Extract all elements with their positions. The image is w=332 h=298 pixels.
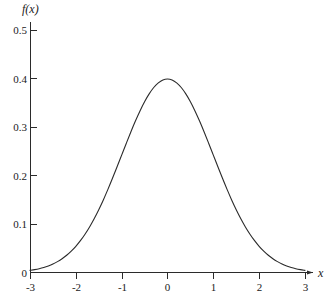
x-tick-label: -3	[26, 281, 36, 293]
y-tick-label: 0.5	[13, 24, 27, 36]
x-axis-arrowhead	[307, 270, 313, 274]
chart-figure: 00.10.20.30.40.5 -3-2-10123 f(x) x	[0, 0, 332, 298]
density-curve	[30, 79, 305, 270]
axes-group	[30, 22, 313, 275]
y-tick-label: 0.3	[13, 121, 27, 133]
x-tick-label: -2	[72, 281, 81, 293]
y-tick-label: 0.1	[13, 218, 27, 230]
normal-distribution-plot: 00.10.20.30.40.5 -3-2-10123 f(x) x	[0, 0, 332, 298]
x-tick-label: 0	[165, 281, 171, 293]
x-axis-label: x	[317, 266, 324, 280]
x-tick-label: 2	[257, 281, 263, 293]
x-tick-labels-group: -3-2-10123	[26, 281, 309, 293]
y-tick-label: 0	[22, 267, 28, 279]
y-tick-label: 0.2	[13, 170, 27, 182]
y-tick-labels-group: 00.10.20.30.40.5	[13, 24, 27, 279]
x-tick-label: -1	[118, 281, 127, 293]
x-tick-marks-group	[31, 273, 306, 279]
y-axis-label: f(x)	[22, 2, 39, 16]
y-tick-marks-group	[31, 30, 37, 273]
x-tick-label: 3	[303, 281, 309, 293]
y-tick-label: 0.4	[13, 73, 27, 85]
x-tick-label: 1	[211, 281, 217, 293]
